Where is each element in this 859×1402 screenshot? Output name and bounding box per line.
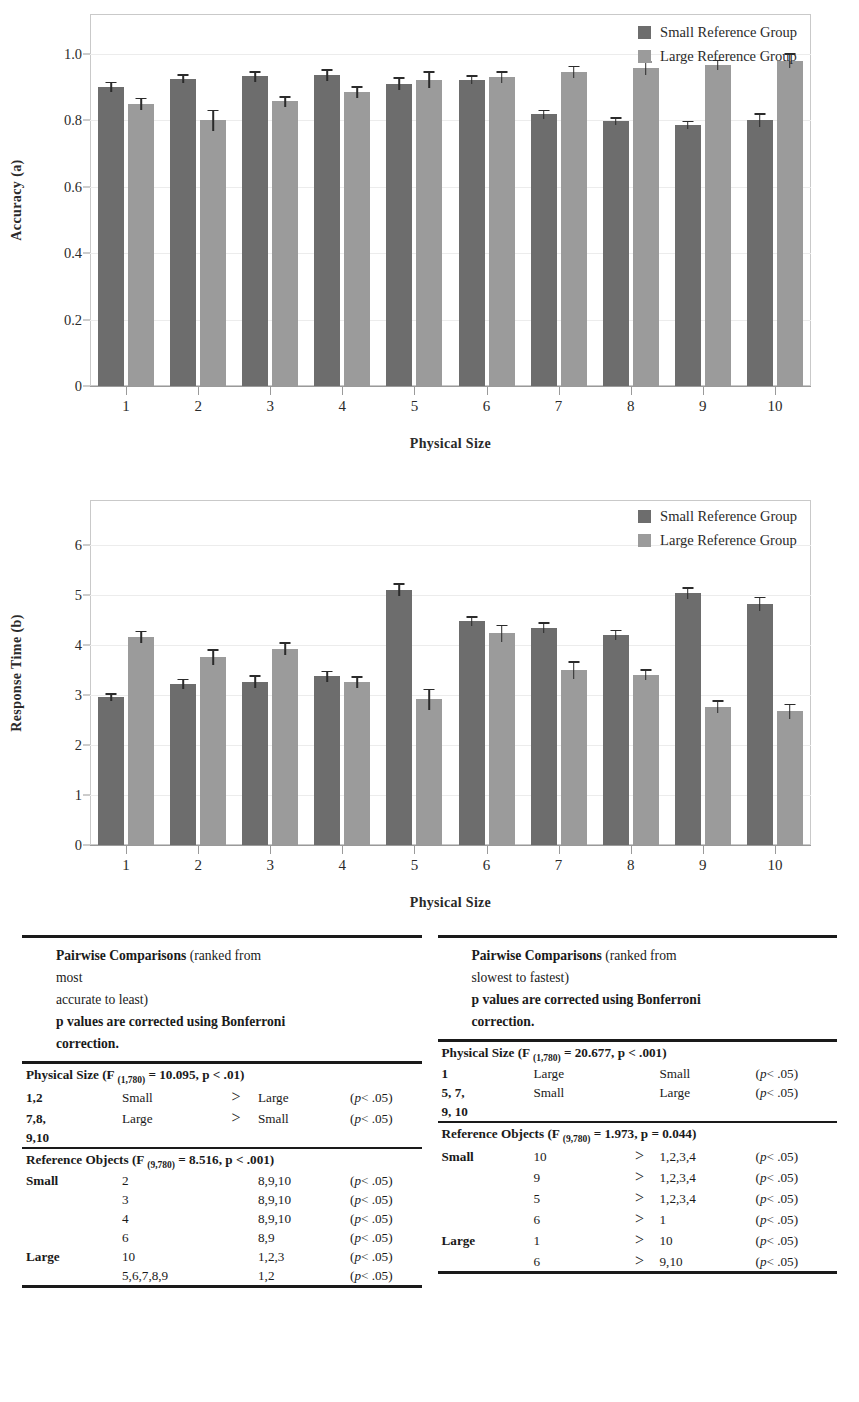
greater-than-icon: > bbox=[620, 1187, 660, 1208]
row-left-term: 10 bbox=[122, 1247, 214, 1266]
bar bbox=[344, 92, 370, 386]
bar-large bbox=[705, 14, 731, 386]
y-tick-mark bbox=[83, 386, 90, 387]
table-row: 7,8,Large>Small(p< .05) bbox=[22, 1107, 422, 1128]
accuracy-legend: Small Reference GroupLarge Reference Gro… bbox=[638, 24, 797, 65]
section-heading-name: Physical Size bbox=[26, 1067, 99, 1082]
x-tick-label: 1 bbox=[90, 857, 162, 874]
row-right-term: 8,9,10 bbox=[258, 1190, 350, 1209]
x-tick-label: 6 bbox=[450, 857, 522, 874]
bar-large bbox=[416, 14, 442, 386]
bar-large bbox=[633, 500, 659, 845]
row-right-term: 8,9,10 bbox=[258, 1171, 350, 1190]
x-tick-mark bbox=[414, 845, 415, 854]
x-tick-slot bbox=[450, 386, 522, 395]
row-right-term: 8,9,10 bbox=[258, 1209, 350, 1228]
error-bar-cap-top bbox=[106, 82, 117, 84]
bar-large bbox=[272, 14, 298, 386]
error-bar bbox=[501, 71, 503, 82]
response-time-y-axis-label-cell: Response Time (b) bbox=[0, 500, 34, 845]
row-group-label bbox=[22, 1266, 122, 1285]
response-time-x-tick-marks bbox=[90, 845, 811, 854]
caption-bold: correction. bbox=[472, 1014, 535, 1029]
error-bar bbox=[357, 676, 359, 688]
error-bar-cap-top bbox=[178, 679, 189, 681]
row-group-label bbox=[438, 1250, 534, 1271]
bar bbox=[242, 76, 268, 386]
row-right-term: 10 bbox=[660, 1229, 756, 1250]
row-p-value: (p< .05) bbox=[350, 1107, 422, 1128]
error-bar-cap-top bbox=[394, 583, 405, 585]
bar-small bbox=[603, 14, 629, 386]
row-right-term: 1,2,3,4 bbox=[660, 1166, 756, 1187]
x-tick-slot bbox=[90, 386, 162, 395]
x-tick-mark bbox=[198, 845, 199, 854]
error-bar bbox=[110, 82, 112, 93]
error-bar-cap-top bbox=[106, 693, 117, 695]
x-tick-mark bbox=[270, 386, 271, 395]
legend-swatch-icon bbox=[638, 510, 651, 523]
bar-large bbox=[128, 500, 154, 845]
table-row: 5>1,2,3,4(p< .05) bbox=[438, 1187, 838, 1208]
x-tick-slot bbox=[234, 386, 306, 395]
bar bbox=[705, 707, 731, 846]
x-tick-slot bbox=[90, 845, 162, 854]
row-group-label: 9, 10 bbox=[438, 1102, 534, 1121]
p-symbol: p bbox=[354, 1211, 361, 1226]
caption-line: slowest to fastest) bbox=[472, 967, 838, 989]
bar bbox=[489, 77, 515, 386]
row-right-term: 1,2 bbox=[258, 1266, 350, 1285]
bar bbox=[98, 87, 124, 386]
bar bbox=[459, 80, 485, 386]
x-tick-mark bbox=[703, 845, 704, 854]
bar bbox=[675, 593, 701, 845]
table-section-heading-row: Physical Size (F (1,780) = 10.095, p < .… bbox=[22, 1064, 422, 1087]
row-p-value: (p< .05) bbox=[350, 1086, 422, 1107]
caption-bold: p values are corrected using Bonferroni bbox=[56, 1014, 285, 1029]
stats-table: Reference Objects (F (9,780) = 1.973, p … bbox=[438, 1123, 838, 1272]
bar-large bbox=[489, 500, 515, 845]
row-right-term bbox=[660, 1102, 756, 1121]
error-bar-cap-top bbox=[712, 700, 723, 702]
bar-small bbox=[314, 14, 340, 386]
bar-group bbox=[523, 14, 595, 386]
error-bar bbox=[357, 86, 359, 98]
bar-large bbox=[344, 500, 370, 845]
error-bar bbox=[327, 671, 329, 682]
row-p-value: (p< .05) bbox=[350, 1190, 422, 1209]
p-symbol: p bbox=[760, 1212, 767, 1227]
row-p-value: (p< .05) bbox=[756, 1187, 838, 1208]
table-section-heading: Reference Objects (F (9,780) = 1.973, p … bbox=[438, 1123, 838, 1146]
x-tick-label: 10 bbox=[739, 857, 811, 874]
error-bar bbox=[284, 642, 286, 655]
row-group-label: Large bbox=[22, 1247, 122, 1266]
x-tick-mark bbox=[126, 845, 127, 854]
y-tick-label: 1.0 bbox=[64, 45, 82, 62]
error-bar-cap-top bbox=[352, 86, 363, 88]
legend-item: Small Reference Group bbox=[638, 508, 797, 525]
accuracy-y-tick-column: 00.20.40.60.81.0 bbox=[34, 14, 90, 386]
section-heading-name: Reference Objects bbox=[442, 1126, 545, 1141]
error-bar bbox=[212, 110, 214, 131]
p-symbol: p bbox=[760, 1085, 767, 1100]
accuracy-plot-area: Small Reference GroupLarge Reference Gro… bbox=[90, 14, 811, 386]
error-bar bbox=[284, 96, 286, 107]
error-bar bbox=[687, 587, 689, 599]
x-tick-mark bbox=[198, 386, 199, 395]
x-tick-label: 2 bbox=[162, 398, 234, 415]
y-tick-mark bbox=[83, 545, 90, 546]
x-tick-mark bbox=[559, 386, 560, 395]
table-caption: Pairwise Comparisons (ranked frommostacc… bbox=[22, 938, 422, 1061]
greater-than-icon bbox=[620, 1083, 660, 1102]
bar-group bbox=[90, 14, 162, 386]
bar-large bbox=[272, 500, 298, 845]
row-left-term: 6 bbox=[122, 1228, 214, 1247]
table-caption: Pairwise Comparisons (ranked fromslowest… bbox=[438, 938, 838, 1039]
bar-group bbox=[90, 500, 162, 845]
x-tick-mark bbox=[487, 386, 488, 395]
bar bbox=[777, 61, 803, 387]
x-tick-slot bbox=[595, 845, 667, 854]
error-bar-cap-top bbox=[496, 71, 507, 73]
error-bar-cap-top bbox=[352, 676, 363, 678]
bar-small bbox=[170, 14, 196, 386]
